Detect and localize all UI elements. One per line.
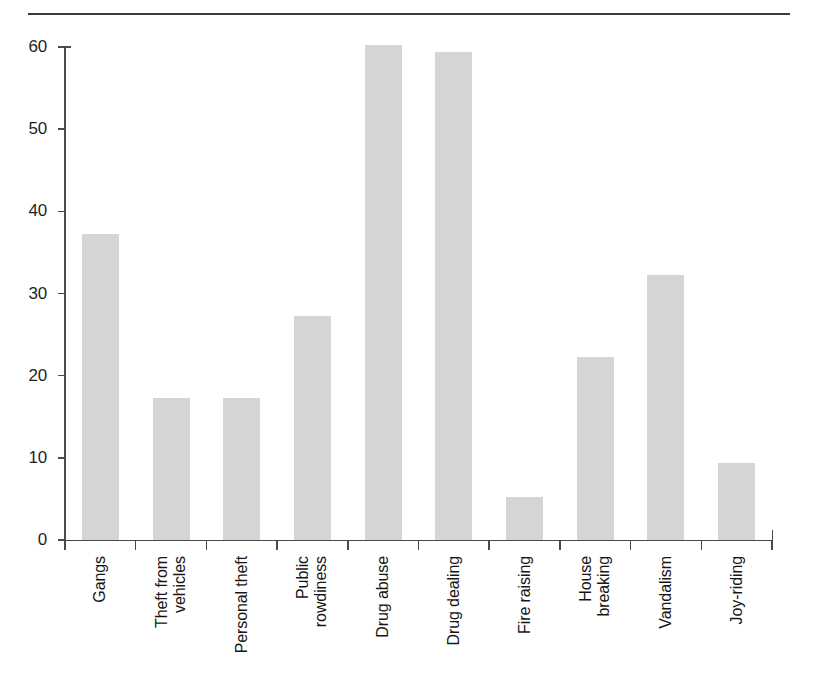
x-axis-category-label: Joy-riding — [728, 556, 746, 684]
x-axis-category-label-line: Vandalism — [657, 556, 675, 684]
x-axis-category-label: Theft fromvehicles — [153, 556, 189, 684]
bar — [153, 398, 190, 540]
x-axis-tick — [630, 540, 632, 550]
x-axis-category-label: Drug abuse — [374, 556, 392, 684]
x-axis-tick — [347, 540, 349, 550]
x-axis-tick — [701, 540, 703, 550]
x-axis-right-cap — [772, 530, 774, 540]
y-axis-tick-label: 60 — [21, 38, 47, 55]
bar — [435, 52, 472, 540]
x-axis-category-label-line: Joy-riding — [728, 556, 746, 684]
x-axis-tick — [559, 540, 561, 550]
x-axis-tick — [135, 540, 137, 550]
y-axis-tick — [58, 293, 65, 295]
y-axis-tick — [58, 457, 65, 459]
y-axis-tick-label: 20 — [21, 367, 47, 384]
x-axis-tick — [771, 540, 773, 550]
y-axis-tick — [58, 375, 65, 377]
y-axis-tick-label: 30 — [21, 285, 47, 302]
bar — [506, 497, 543, 540]
x-axis-tick — [418, 540, 420, 550]
x-axis-category-label-line: House — [577, 556, 595, 684]
x-axis-category-label-line: Public — [294, 556, 312, 684]
x-axis-tick — [488, 540, 490, 550]
x-axis-category-label-line: Theft from — [153, 556, 171, 684]
bar — [223, 398, 260, 540]
x-axis-category-label-line: vehicles — [171, 556, 189, 684]
x-axis-tick — [206, 540, 208, 550]
y-axis-tick — [58, 46, 65, 48]
x-axis-category-label-line: Personal theft — [233, 556, 251, 684]
bar — [647, 275, 684, 540]
bar — [365, 45, 402, 540]
x-axis-category-label-line: breaking — [595, 556, 613, 684]
bar — [82, 234, 119, 540]
bar — [294, 316, 331, 540]
x-axis-category-label: Gangs — [91, 556, 109, 684]
x-axis-category-label: Drug dealing — [445, 556, 463, 684]
x-axis-category-label-line: Gangs — [91, 556, 109, 684]
y-axis-tick-label: 40 — [21, 202, 47, 219]
y-axis-tick — [58, 128, 65, 130]
x-axis-tick — [64, 540, 66, 550]
x-axis-category-label: Fire raising — [516, 556, 534, 684]
x-axis-category-label: Personal theft — [233, 556, 251, 684]
x-axis-category-label-line: rowdiness — [312, 556, 330, 684]
bar-chart-plot-area: 0102030405060 GangsTheft fromvehiclesPer… — [0, 0, 813, 688]
x-axis-category-label: Vandalism — [657, 556, 675, 684]
x-axis-category-label-line: Drug abuse — [374, 556, 392, 684]
x-axis-tick — [276, 540, 278, 550]
y-axis-tick-label: 0 — [21, 531, 47, 548]
x-axis-category-label-line: Fire raising — [516, 556, 534, 684]
x-axis-category-label: Publicrowdiness — [294, 556, 330, 684]
y-axis-tick-label: 50 — [21, 120, 47, 137]
y-axis-tick-label: 10 — [21, 449, 47, 466]
x-axis-category-label: Housebreaking — [577, 556, 613, 684]
figure: 0102030405060 GangsTheft fromvehiclesPer… — [0, 0, 813, 688]
bar — [577, 357, 614, 540]
y-axis-top-cap — [64, 46, 71, 48]
x-axis-category-label-line: Drug dealing — [445, 556, 463, 684]
bar — [718, 463, 755, 540]
y-axis-tick — [58, 211, 65, 213]
